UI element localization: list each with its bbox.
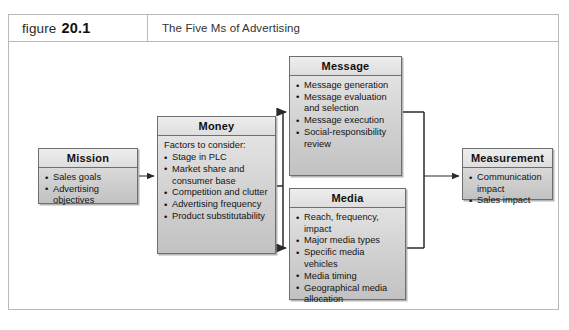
figure-container: figure 20.1 The Five Ms of Advertising M… bbox=[0, 0, 569, 330]
box-title-money: Money bbox=[158, 117, 275, 136]
box-title-mission: Mission bbox=[39, 149, 137, 168]
list-item: Reach, frequency, impact bbox=[296, 212, 400, 235]
list-item: Message execution bbox=[296, 115, 396, 127]
box-body-media: Reach, frequency, impact Major media typ… bbox=[290, 208, 405, 309]
diagram-box-mission: Mission Sales goals Advertising objectiv… bbox=[38, 148, 138, 204]
list-item: Social-responsibility review bbox=[296, 127, 396, 150]
box-title-measurement: Measurement bbox=[463, 149, 552, 168]
list-item: Sales goals bbox=[45, 172, 132, 184]
list-item: Advertising objectives bbox=[45, 184, 132, 207]
list-item: Advertising frequency bbox=[164, 199, 270, 211]
list-item: Competition and clutter bbox=[164, 187, 270, 199]
diagram-box-message: Message Message generation Message evalu… bbox=[289, 56, 402, 176]
figure-caption: The Five Ms of Advertising bbox=[162, 14, 300, 42]
figure-label-tab: figure 20.1 bbox=[8, 14, 148, 42]
diagram-box-money: Money Factors to consider: Stage in PLC … bbox=[157, 116, 276, 254]
list-item: Communication impact bbox=[469, 172, 547, 195]
bullet-list-message: Message generation Message evaluation an… bbox=[296, 80, 396, 150]
bullet-list-measurement: Communication impact Sales impact bbox=[469, 172, 547, 207]
bullet-list-money: Stage in PLC Market share and consumer b… bbox=[164, 152, 270, 223]
box-body-mission: Sales goals Advertising objectives bbox=[39, 168, 137, 210]
box-title-media: Media bbox=[290, 189, 405, 208]
list-item: Stage in PLC bbox=[164, 152, 270, 164]
list-item: Sales impact bbox=[469, 195, 547, 207]
figure-label-number: 20.1 bbox=[61, 20, 90, 36]
list-item: Specific media vehicles bbox=[296, 247, 400, 270]
list-item: Message generation bbox=[296, 80, 396, 92]
box-body-money: Factors to consider: Stage in PLC Market… bbox=[158, 136, 275, 226]
figure-label-word: figure bbox=[22, 21, 56, 36]
bullet-list-media: Reach, frequency, impact Major media typ… bbox=[296, 212, 400, 306]
bullet-list-mission: Sales goals Advertising objectives bbox=[45, 172, 132, 207]
box-title-message: Message bbox=[290, 57, 401, 76]
box-body-measurement: Communication impact Sales impact bbox=[463, 168, 552, 210]
list-item: Message evaluation and selection bbox=[296, 92, 396, 115]
list-item: Major media types bbox=[296, 235, 400, 247]
box-lead-money: Factors to consider: bbox=[164, 140, 270, 152]
diagram-box-media: Media Reach, frequency, impact Major med… bbox=[289, 188, 406, 300]
list-item: Product substitutability bbox=[164, 211, 270, 223]
list-item: Geographical media allocation bbox=[296, 283, 400, 306]
list-item: Market share and consumer base bbox=[164, 164, 270, 187]
diagram-box-measurement: Measurement Communication impact Sales i… bbox=[462, 148, 553, 200]
list-item: Media timing bbox=[296, 271, 400, 283]
box-body-message: Message generation Message evaluation an… bbox=[290, 76, 401, 154]
